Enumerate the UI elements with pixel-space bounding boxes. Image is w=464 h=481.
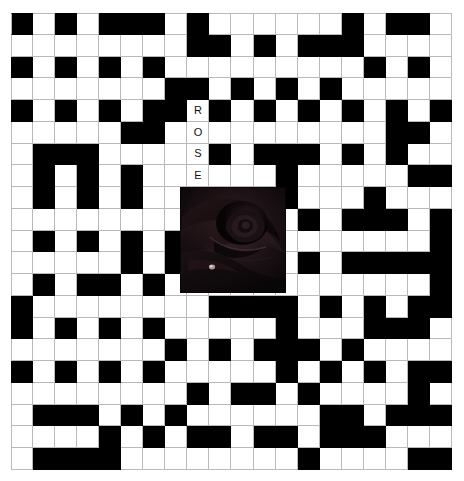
crossword-open-cell[interactable]: [77, 100, 99, 122]
crossword-open-cell[interactable]: [33, 100, 55, 122]
crossword-open-cell[interactable]: [33, 78, 55, 100]
crossword-open-cell[interactable]: [77, 383, 99, 405]
crossword-open-cell[interactable]: [254, 448, 276, 470]
crossword-open-cell[interactable]: [430, 122, 452, 144]
crossword-open-cell[interactable]: [77, 296, 99, 318]
crossword-open-cell[interactable]: [11, 209, 33, 231]
crossword-open-cell[interactable]: [408, 339, 430, 361]
crossword-open-cell[interactable]: [33, 318, 55, 340]
crossword-open-cell[interactable]: [254, 318, 276, 340]
crossword-open-cell[interactable]: [342, 57, 364, 79]
crossword-open-cell[interactable]: [33, 57, 55, 79]
crossword-open-cell[interactable]: [55, 187, 77, 209]
crossword-open-cell[interactable]: [11, 78, 33, 100]
crossword-open-cell[interactable]: [254, 361, 276, 383]
crossword-open-cell[interactable]: [121, 209, 143, 231]
crossword-open-cell[interactable]: [276, 405, 298, 427]
crossword-open-cell[interactable]: [254, 122, 276, 144]
crossword-open-cell[interactable]: [276, 100, 298, 122]
crossword-open-cell[interactable]: [11, 405, 33, 427]
crossword-open-cell[interactable]: [408, 274, 430, 296]
crossword-open-cell[interactable]: [11, 383, 33, 405]
crossword-open-cell[interactable]: [55, 122, 77, 144]
crossword-open-cell[interactable]: [121, 35, 143, 57]
crossword-open-cell[interactable]: [364, 448, 386, 470]
crossword-open-cell[interactable]: [165, 426, 187, 448]
crossword-open-cell[interactable]: [342, 274, 364, 296]
crossword-open-cell[interactable]: [430, 144, 452, 166]
crossword-open-cell[interactable]: [33, 122, 55, 144]
crossword-open-cell[interactable]: [364, 13, 386, 35]
crossword-open-cell[interactable]: [121, 361, 143, 383]
crossword-open-cell[interactable]: [143, 165, 165, 187]
crossword-open-cell[interactable]: [165, 448, 187, 470]
crossword-open-cell[interactable]: [11, 122, 33, 144]
crossword-open-cell[interactable]: [143, 405, 165, 427]
crossword-open-cell[interactable]: [165, 35, 187, 57]
crossword-open-cell[interactable]: [342, 231, 364, 253]
crossword-open-cell[interactable]: [99, 78, 121, 100]
crossword-open-cell[interactable]: [121, 448, 143, 470]
crossword-open-cell[interactable]: [55, 165, 77, 187]
crossword-letter-cell[interactable]: E: [187, 165, 209, 187]
crossword-open-cell[interactable]: [408, 100, 430, 122]
crossword-open-cell[interactable]: [121, 100, 143, 122]
crossword-open-cell[interactable]: [143, 252, 165, 274]
crossword-open-cell[interactable]: [143, 144, 165, 166]
crossword-open-cell[interactable]: [298, 361, 320, 383]
crossword-open-cell[interactable]: [342, 187, 364, 209]
crossword-open-cell[interactable]: [55, 231, 77, 253]
crossword-open-cell[interactable]: [342, 361, 364, 383]
crossword-open-cell[interactable]: [55, 296, 77, 318]
crossword-open-cell[interactable]: [231, 318, 253, 340]
crossword-open-cell[interactable]: [33, 339, 55, 361]
crossword-open-cell[interactable]: [342, 448, 364, 470]
crossword-open-cell[interactable]: [231, 361, 253, 383]
crossword-open-cell[interactable]: [386, 296, 408, 318]
crossword-open-cell[interactable]: [298, 187, 320, 209]
crossword-open-cell[interactable]: [77, 57, 99, 79]
crossword-open-cell[interactable]: [254, 13, 276, 35]
crossword-open-cell[interactable]: [187, 57, 209, 79]
crossword-open-cell[interactable]: [11, 252, 33, 274]
crossword-open-cell[interactable]: [165, 13, 187, 35]
crossword-open-cell[interactable]: [77, 361, 99, 383]
crossword-open-cell[interactable]: [55, 274, 77, 296]
crossword-open-cell[interactable]: [320, 100, 342, 122]
crossword-open-cell[interactable]: [77, 426, 99, 448]
crossword-open-cell[interactable]: [298, 296, 320, 318]
crossword-open-cell[interactable]: [364, 339, 386, 361]
crossword-open-cell[interactable]: [77, 13, 99, 35]
crossword-open-cell[interactable]: [430, 13, 452, 35]
crossword-open-cell[interactable]: [55, 339, 77, 361]
crossword-open-cell[interactable]: [55, 35, 77, 57]
crossword-open-cell[interactable]: [342, 318, 364, 340]
crossword-open-cell[interactable]: [320, 122, 342, 144]
crossword-open-cell[interactable]: [165, 296, 187, 318]
crossword-open-cell[interactable]: [11, 426, 33, 448]
crossword-open-cell[interactable]: [408, 231, 430, 253]
crossword-open-cell[interactable]: [430, 318, 452, 340]
crossword-open-cell[interactable]: [408, 144, 430, 166]
crossword-open-cell[interactable]: [298, 405, 320, 427]
crossword-open-cell[interactable]: [165, 144, 187, 166]
crossword-open-cell[interactable]: [231, 144, 253, 166]
crossword-open-cell[interactable]: [77, 78, 99, 100]
crossword-open-cell[interactable]: [320, 144, 342, 166]
crossword-open-cell[interactable]: [231, 35, 253, 57]
crossword-open-cell[interactable]: [99, 383, 121, 405]
crossword-open-cell[interactable]: [386, 383, 408, 405]
crossword-open-cell[interactable]: [209, 13, 231, 35]
crossword-open-cell[interactable]: [364, 405, 386, 427]
crossword-open-cell[interactable]: [231, 339, 253, 361]
crossword-letter-cell[interactable]: R: [187, 100, 209, 122]
crossword-open-cell[interactable]: [33, 426, 55, 448]
crossword-open-cell[interactable]: [298, 318, 320, 340]
crossword-open-cell[interactable]: [77, 318, 99, 340]
crossword-open-cell[interactable]: [342, 78, 364, 100]
crossword-open-cell[interactable]: [386, 187, 408, 209]
crossword-open-cell[interactable]: [99, 405, 121, 427]
crossword-open-cell[interactable]: [121, 426, 143, 448]
crossword-open-cell[interactable]: [11, 231, 33, 253]
crossword-open-cell[interactable]: [364, 100, 386, 122]
